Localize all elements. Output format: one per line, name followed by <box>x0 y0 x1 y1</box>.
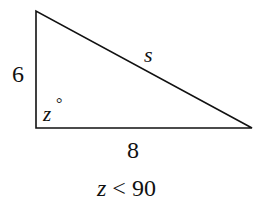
angle-variable-label: z <box>43 104 51 125</box>
side-length-bottom: 8 <box>127 138 139 162</box>
condition-variable: z <box>97 175 106 201</box>
triangle <box>36 11 252 128</box>
angle-condition: z < 90 <box>97 176 156 200</box>
side-length-left: 6 <box>12 62 24 86</box>
hypotenuse-label: s <box>144 44 153 66</box>
degree-symbol: ° <box>56 96 62 112</box>
